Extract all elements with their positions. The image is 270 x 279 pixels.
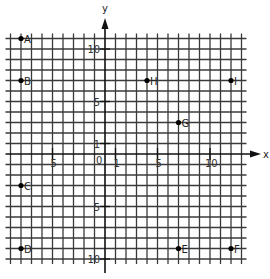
point-f-label: F: [234, 244, 240, 255]
axes: xy: [6, 3, 270, 273]
point-a-marker: [18, 36, 23, 41]
point-f-marker: [228, 246, 233, 251]
point-g-label: G: [182, 118, 190, 129]
point-e-label: E: [182, 244, 188, 255]
coordinate-plane: xy 5015101051510 ABCDEFGHI: [0, 0, 269, 279]
point-b-marker: [18, 78, 23, 83]
x-tick-label: 5: [51, 158, 57, 169]
y-tick-label: 1: [94, 139, 100, 150]
x-tick-label: 1: [114, 158, 120, 169]
point-a-label: A: [24, 34, 31, 45]
point-e-marker: [176, 246, 181, 251]
point-c-marker: [18, 183, 23, 188]
point-i-label: I: [234, 76, 237, 87]
y-tick-label: 10: [87, 254, 100, 265]
x-axis-arrow-icon: [250, 151, 261, 158]
y-tick-label: 5: [94, 202, 100, 213]
x-axis-label: x: [263, 149, 269, 160]
point-h-marker: [144, 78, 149, 83]
y-axis-label: y: [102, 3, 108, 14]
x-tick-label-origin: 0: [96, 155, 102, 166]
y-axis-arrow-icon: [102, 18, 109, 29]
point-h-label: H: [150, 76, 158, 87]
y-tick-label: 5: [94, 97, 100, 108]
x-tick-label: 5: [156, 158, 162, 169]
y-tick-label: 10: [87, 44, 100, 55]
point-b-label: B: [24, 76, 31, 87]
x-tick-label: 10: [205, 158, 218, 169]
point-g-marker: [176, 120, 181, 125]
point-d-marker: [18, 246, 23, 251]
point-i-marker: [228, 78, 233, 83]
point-c-label: C: [24, 181, 31, 192]
point-d-label: D: [24, 244, 32, 255]
